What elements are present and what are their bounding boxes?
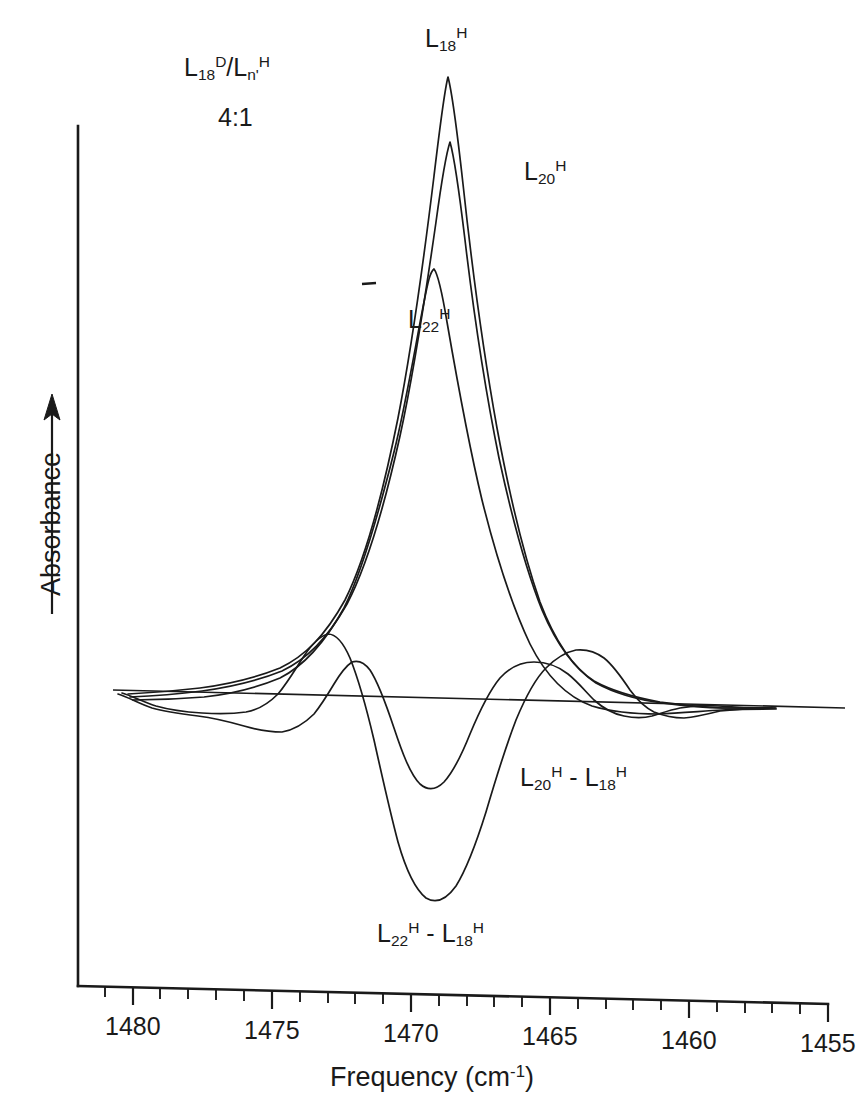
curve-label-l18h: L18H [425, 25, 467, 53]
d2018-sub1: 20 [534, 776, 551, 793]
sample-sup-h: H [259, 53, 270, 70]
curve-label-diff-l22h-l18h: L22H-L18H [377, 920, 484, 948]
sample-sup-d: D [215, 53, 226, 70]
d2218-base2: L [442, 919, 456, 947]
l18-sup: H [456, 24, 467, 41]
x-title-exponent: -1 [510, 1062, 525, 1081]
curve-l22h [133, 269, 776, 714]
curve-diff-l22h-l18h [122, 634, 772, 901]
curve-label-l22h: L22H [408, 306, 450, 334]
curve-label-diff-l20h-l18h: L20H-L18H [520, 764, 627, 792]
d2218-sub1: 22 [391, 932, 408, 949]
x-title-close: ) [525, 1062, 534, 1092]
x-tick-label-1465: 1465 [522, 1022, 578, 1051]
d2018-base1: L [520, 763, 534, 791]
sample-slash: /L [226, 53, 247, 81]
x-axis-major-ticks [133, 987, 828, 1022]
d2218-sup2: H [473, 919, 484, 936]
d2218-sup1: H [408, 919, 419, 936]
d2018-base2: L [585, 763, 599, 791]
x-tick-label-1455: 1455 [800, 1029, 856, 1058]
y-axis-title: Absorbance [36, 452, 67, 596]
curve-label-l20h: L20H [524, 158, 566, 186]
d2018-sup2: H [616, 763, 627, 780]
d2218-minus: - [419, 919, 441, 947]
x-title-main: Frequency (cm [330, 1062, 510, 1092]
tick-artifact-mark [362, 283, 376, 284]
l18-sub: 18 [439, 37, 456, 54]
curve-l20h [130, 142, 776, 708]
x-axis-title: Frequency (cm-1) [330, 1062, 534, 1093]
d2218-sub2: 18 [456, 932, 473, 949]
sample-ratio-label: 4:1 [218, 105, 253, 130]
x-tick-label-1460: 1460 [661, 1026, 717, 1055]
d2018-minus: - [562, 763, 584, 791]
d2018-sub2: 18 [599, 776, 616, 793]
l20-base: L [524, 157, 538, 185]
sample-composition-label: L18D/Ln'H [184, 54, 270, 82]
sample-sub-18: 18 [198, 66, 215, 83]
curve-diff-l20h-l18h [118, 661, 768, 788]
curve-l18h [128, 77, 775, 708]
l22-sub: 22 [422, 318, 439, 335]
sample-l: L [184, 53, 198, 81]
l22-sup: H [439, 305, 450, 322]
d2018-sup1: H [551, 763, 562, 780]
x-tick-label-1480: 1480 [105, 1012, 161, 1041]
baseline-zero-line [113, 690, 845, 708]
l20-sub: 20 [538, 170, 555, 187]
l22-base: L [408, 305, 422, 333]
x-tick-label-1475: 1475 [244, 1016, 300, 1045]
l20-sup: H [555, 157, 566, 174]
spectrum-figure: L18D/Ln'H 4:1 L18H L20H L22H L20H-L18H L… [0, 0, 868, 1106]
x-tick-label-1470: 1470 [383, 1019, 439, 1048]
sample-sub-n: n' [247, 66, 259, 83]
x-axis-line [78, 986, 828, 1004]
l18-base: L [425, 24, 439, 52]
d2218-base1: L [377, 919, 391, 947]
